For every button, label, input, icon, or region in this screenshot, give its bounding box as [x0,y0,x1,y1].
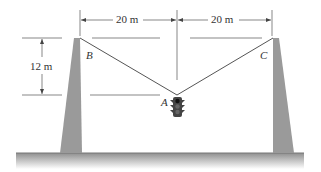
diagram-canvas [0,0,321,172]
right-pole [273,38,294,153]
dim-right-span: 20 m [211,14,233,25]
traffic-light-icon [170,97,185,117]
left-pole [60,38,82,153]
dim-left-span: 20 m [116,14,138,25]
ground [16,153,304,169]
point-b-label: B [86,50,93,61]
cable-ab [80,38,177,95]
point-a-label: A [161,97,168,108]
point-c-label: C [260,50,267,61]
dim-height: 12 m [30,61,52,72]
cable-ac [177,38,273,95]
